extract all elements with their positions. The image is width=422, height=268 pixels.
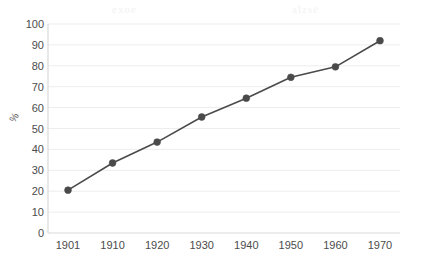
data-point-1940 xyxy=(243,95,250,102)
data-point-1960 xyxy=(332,63,339,70)
series-polyline xyxy=(68,41,380,190)
data-point-1920 xyxy=(154,139,161,146)
data-point-1950 xyxy=(287,74,294,81)
line-chart-figure: exoe alzse % 0102030405060708090100 1901… xyxy=(0,0,422,268)
data-point-1910 xyxy=(109,160,116,167)
plot-area xyxy=(0,0,422,268)
gridlines xyxy=(48,24,400,212)
data-point-1970 xyxy=(377,37,384,44)
data-point-1930 xyxy=(198,114,205,121)
data-line xyxy=(68,41,380,190)
data-point-1901 xyxy=(65,187,72,194)
